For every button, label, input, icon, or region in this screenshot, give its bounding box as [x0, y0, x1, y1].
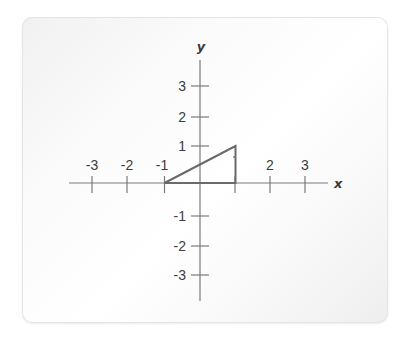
y-tick-label: -3 [174, 267, 187, 283]
x-tick-label: 3 [301, 157, 309, 173]
y-tick-label: -1 [174, 208, 187, 224]
y-tick-label: -2 [174, 238, 187, 254]
x-ticks [92, 176, 305, 193]
x-tick-label: -1 [156, 157, 169, 173]
y-tick-label: 3 [178, 78, 186, 94]
x-tick-label: 2 [266, 157, 274, 173]
y-tick-label: 2 [178, 109, 186, 125]
x-axis-label: x [333, 176, 343, 191]
x-tick-label: -3 [86, 157, 99, 173]
y-axis-label: y [197, 39, 206, 54]
coordinate-plane: -3 -2 -1 2 3 3 2 1 -1 -2 -3 x y [0, 0, 407, 341]
x-tick-label: -2 [121, 157, 134, 173]
y-tick-label: 1 [178, 138, 186, 154]
